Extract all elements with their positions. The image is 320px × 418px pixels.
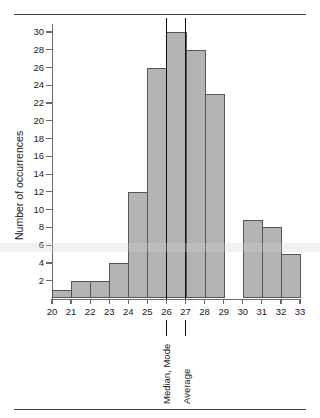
y-axis-tick <box>46 209 52 210</box>
x-axis-tick <box>51 299 52 304</box>
histogram-bar <box>109 263 129 299</box>
x-axis-tick <box>299 299 300 304</box>
y-axis-tick <box>46 138 52 139</box>
x-axis-tick <box>128 299 129 304</box>
x-axis-tick <box>166 299 167 304</box>
x-axis-tick <box>204 299 205 304</box>
y-axis-tick <box>46 156 52 157</box>
y-axis-tick <box>46 49 52 50</box>
x-axis-tick <box>90 299 91 304</box>
histogram-bar <box>243 220 263 298</box>
x-axis-tick <box>223 299 224 304</box>
y-axis-tick-label: 4 <box>4 258 44 268</box>
annotation-label: Median, Mode <box>162 344 172 404</box>
x-axis-tick <box>280 299 281 304</box>
histogram-bar <box>128 192 148 299</box>
histogram-chart: 2468101214161820222426283020212223242526… <box>0 0 320 418</box>
histogram-bar <box>166 32 186 299</box>
y-axis-tick <box>46 31 52 32</box>
histogram-bar <box>186 50 206 299</box>
histogram-bar <box>205 94 225 298</box>
y-axis-tick <box>46 85 52 86</box>
y-axis-tick-label: 28 <box>4 45 44 55</box>
x-axis-tick <box>242 299 243 304</box>
y-axis-title: Number of occurrences <box>14 131 25 240</box>
x-axis-tick <box>261 299 262 304</box>
y-axis-tick-label: 22 <box>4 98 44 108</box>
annotation-marker-stub <box>166 320 167 336</box>
y-axis-tick-label: 26 <box>4 63 44 73</box>
y-axis-tick-label: 24 <box>4 80 44 90</box>
y-axis-tick <box>46 227 52 228</box>
y-axis-tick-label: 20 <box>4 116 44 126</box>
annotation-marker-line <box>166 18 168 299</box>
y-axis-tick <box>46 67 52 68</box>
annotation-label: Average <box>182 369 192 404</box>
annotation-marker-stub <box>185 320 186 336</box>
y-axis-tick-label: 6 <box>4 240 44 250</box>
histogram-bar <box>90 281 110 299</box>
histogram-bar <box>281 254 301 298</box>
y-axis-line <box>52 24 53 299</box>
histogram-bar <box>52 290 72 299</box>
histogram-bar <box>147 68 167 299</box>
y-axis-tick <box>46 120 52 121</box>
x-axis-tick <box>70 299 71 304</box>
x-axis-tick <box>185 299 186 304</box>
histogram-bar <box>71 281 91 299</box>
y-axis-tick <box>46 262 52 263</box>
annotation-marker-line <box>185 18 187 299</box>
y-axis-tick <box>46 174 52 175</box>
x-axis-tick <box>109 299 110 304</box>
x-axis-tick <box>147 299 148 304</box>
y-axis-tick <box>46 102 52 103</box>
x-axis-tick-label: 33 <box>288 307 312 317</box>
y-axis-tick <box>46 280 52 281</box>
histogram-bar <box>262 227 282 298</box>
y-axis-tick <box>46 191 52 192</box>
y-axis-tick-label: 30 <box>4 27 44 37</box>
y-axis-tick-label: 2 <box>4 276 44 286</box>
y-axis-tick <box>46 245 52 246</box>
